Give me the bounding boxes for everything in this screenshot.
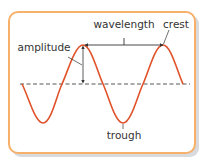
- amplitude-label: amplitude: [17, 41, 70, 53]
- crest-label: crest: [163, 18, 189, 30]
- trough-label: trough: [107, 129, 142, 141]
- wavelength-label: wavelength: [93, 18, 154, 30]
- wave-diagram-svg: wavelength crest amplitude trough: [0, 0, 206, 163]
- wave-diagram: wavelength crest amplitude trough: [0, 0, 206, 163]
